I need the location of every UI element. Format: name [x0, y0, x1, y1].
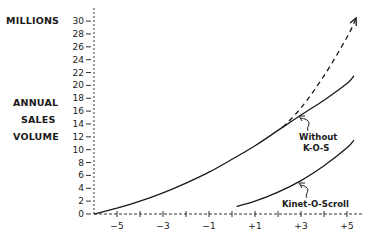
annotation-without-kos-line1: Without — [299, 132, 337, 142]
y-tick-label: 0 — [78, 209, 84, 219]
y-tick-label: 24 — [73, 55, 85, 65]
pointer-arrow-without-kos — [299, 116, 309, 131]
series-group — [94, 18, 356, 214]
y-tick-label: 20 — [73, 80, 85, 90]
y-tick-label: 6 — [78, 170, 84, 180]
pointer-arrow-kinet-o-scroll — [299, 183, 308, 198]
series-kinet-o-scroll-line — [237, 140, 354, 206]
x-tick-label: +1 — [248, 221, 261, 231]
y-tick-label: 18 — [73, 93, 85, 103]
y-tick-label: 16 — [73, 106, 85, 116]
y-tick-label: 30 — [73, 16, 85, 26]
annotations: Without K-O-S Kinet-O-Scroll — [282, 116, 349, 209]
x-axis: −5−3−1+1+3+5 — [94, 211, 364, 231]
y-tick-label: 14 — [73, 119, 85, 129]
y-tick-label: 28 — [73, 29, 85, 39]
y-axis: 024681012141618202224262830 — [73, 6, 94, 219]
y-tick-label: 22 — [73, 68, 84, 78]
arrowhead-icon — [350, 18, 356, 26]
annotation-without-kos-line2: K-O-S — [303, 143, 329, 153]
y-tick-label: 8 — [78, 158, 84, 168]
series-projected-dashed-line — [283, 18, 357, 127]
x-tick-label: +5 — [340, 221, 353, 231]
x-tick-label: −1 — [202, 221, 215, 231]
x-tick-label: −3 — [156, 221, 169, 231]
y-tick-label: 12 — [73, 132, 84, 142]
sales-chart: 024681012141618202224262830 −5−3−1+1+3+5… — [0, 0, 374, 240]
y-tick-label: 4 — [78, 183, 84, 193]
y-tick-label: 2 — [78, 196, 84, 206]
y-tick-label: 10 — [73, 145, 85, 155]
x-tick-label: −5 — [110, 221, 123, 231]
y-tick-label: 26 — [73, 42, 85, 52]
x-tick-label: +3 — [294, 221, 307, 231]
annotation-kinet-o-scroll: Kinet-O-Scroll — [282, 199, 349, 209]
